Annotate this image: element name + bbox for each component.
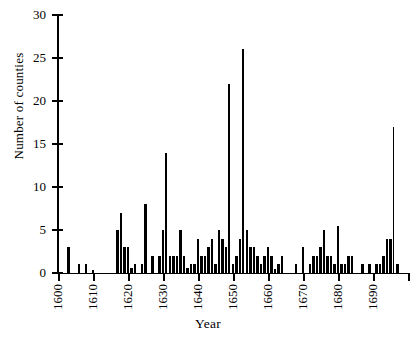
x-axis-title: Year <box>0 316 416 332</box>
bar <box>211 239 214 273</box>
bar <box>197 239 200 273</box>
bar <box>85 264 88 273</box>
bar <box>309 264 312 273</box>
x-tick-label: 1620 <box>121 284 137 310</box>
bar <box>186 268 189 273</box>
bar <box>253 247 256 273</box>
x-tick-1650 <box>233 273 235 281</box>
x-tick-end <box>408 273 410 281</box>
bar <box>214 264 217 273</box>
x-tick-label: 1680 <box>331 284 347 310</box>
x-tick-label: 1650 <box>226 284 242 310</box>
bar <box>127 247 130 273</box>
x-tick-1600 <box>58 273 60 281</box>
bar <box>134 264 137 273</box>
bar <box>267 247 270 273</box>
bar <box>249 247 252 273</box>
bar <box>162 230 165 273</box>
bar <box>270 256 273 273</box>
bar <box>382 256 385 273</box>
x-tick-1670 <box>303 273 305 281</box>
bar <box>274 269 277 273</box>
bar <box>347 256 350 273</box>
bar <box>333 264 336 273</box>
bar <box>256 256 259 273</box>
bar <box>120 213 123 273</box>
bar <box>67 247 70 273</box>
bar <box>176 256 179 273</box>
x-tick-label: 1690 <box>366 284 382 310</box>
bar <box>158 256 161 273</box>
bar <box>190 264 193 273</box>
x-tick-label: 1630 <box>156 284 172 310</box>
bar-series <box>0 0 416 273</box>
x-tick-1610 <box>93 273 95 281</box>
bar <box>361 264 364 273</box>
chart-container: Number of counties 051015202530 16001610… <box>0 0 416 343</box>
bar <box>379 264 382 273</box>
x-tick-label: 1610 <box>86 284 102 310</box>
bar <box>389 239 392 273</box>
bar <box>319 247 322 273</box>
x-tick-1640 <box>198 273 200 281</box>
bar <box>246 230 249 273</box>
bar <box>337 226 340 273</box>
bar <box>281 256 284 273</box>
x-tick-label: 1660 <box>261 284 277 310</box>
bar <box>232 264 235 273</box>
bar <box>200 256 203 273</box>
bar <box>263 256 266 273</box>
bar <box>207 247 210 273</box>
bar <box>151 256 154 273</box>
bar <box>172 256 175 273</box>
bar <box>351 256 354 273</box>
x-tick-label: 1600 <box>51 284 67 310</box>
bar <box>344 264 347 273</box>
bar <box>228 84 230 273</box>
bar <box>260 264 263 273</box>
bar <box>316 256 319 273</box>
bar <box>204 256 207 273</box>
bar <box>340 264 343 273</box>
bar <box>169 256 172 273</box>
x-tick-1680 <box>338 273 340 281</box>
bar <box>277 264 280 273</box>
bar <box>302 247 305 273</box>
bar <box>179 230 182 273</box>
bar <box>183 256 186 273</box>
bar <box>218 230 221 273</box>
bar <box>396 264 399 273</box>
bar <box>312 256 315 273</box>
bar <box>242 49 244 273</box>
bar <box>92 270 95 273</box>
bar <box>295 264 298 273</box>
bar <box>144 204 147 273</box>
bar <box>326 256 329 273</box>
bar <box>393 127 395 273</box>
x-tick-label: 1670 <box>296 284 312 310</box>
bar <box>368 264 371 273</box>
x-tick-label: 1640 <box>191 284 207 310</box>
bar <box>193 264 196 273</box>
bar <box>141 264 144 273</box>
bar <box>386 239 389 273</box>
bar <box>375 264 378 273</box>
x-tick-1630 <box>163 273 165 281</box>
bar <box>239 239 242 273</box>
bar <box>123 247 126 273</box>
x-tick-1690 <box>373 273 375 281</box>
bar <box>221 239 224 273</box>
x-tick-1660 <box>268 273 270 281</box>
bar <box>78 264 81 273</box>
x-tick-1620 <box>128 273 130 281</box>
bar <box>116 230 119 273</box>
bar <box>235 256 238 273</box>
bar <box>225 247 228 273</box>
bar <box>165 153 167 273</box>
bar <box>330 256 333 273</box>
bar <box>130 268 133 273</box>
bar <box>323 230 326 273</box>
